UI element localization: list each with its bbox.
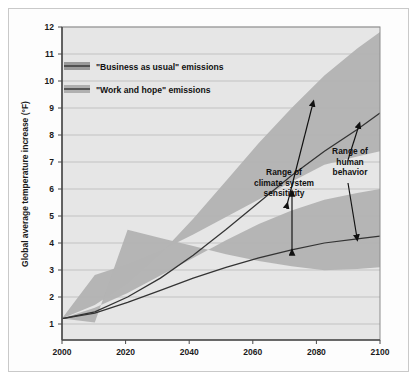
y-axis-title: Global average temperature increase (°F) — [20, 101, 30, 267]
y-tick-label: 11 — [45, 49, 54, 59]
climate-sensitivity-label-line1: Range of — [266, 167, 302, 177]
temperature-projection-chart: 12 11 10 9 8 7 6 5 4 3 2 1 Global averag… — [0, 0, 417, 383]
y-tick-label: 1 — [49, 319, 54, 329]
y-tick-label: 8 — [49, 130, 54, 140]
human-behavior-label-line1: Range of — [332, 146, 368, 156]
human-behavior-label-line2: human — [336, 157, 363, 167]
x-tick-label: 2040 — [180, 347, 199, 357]
x-tick-label: 2020 — [116, 347, 135, 357]
y-axis-tick-labels: 12 11 10 9 8 7 6 5 4 3 2 1 — [45, 22, 55, 329]
x-tick-label: 2060 — [243, 347, 262, 357]
y-tick-label: 7 — [49, 157, 54, 167]
y-tick-label: 6 — [49, 184, 54, 194]
y-tick-label: 10 — [45, 76, 55, 86]
y-tick-label: 9 — [49, 103, 54, 113]
y-tick-label: 3 — [49, 265, 54, 275]
climate-sensitivity-label-line2: climate system — [254, 178, 314, 188]
y-tick-label: 4 — [49, 238, 54, 248]
x-tick-label: 2080 — [307, 347, 326, 357]
climate-sensitivity-label-line3: sensitivity — [264, 188, 305, 198]
legend-item-business-as-usual[interactable]: "Business as usual" emissions — [64, 62, 224, 72]
legend-item-work-and-hope[interactable]: "Work and hope" emissions — [64, 85, 211, 95]
human-behavior-label-line3: behavior — [333, 167, 369, 177]
legend-label-business-as-usual: "Business as usual" emissions — [96, 62, 224, 72]
y-tick-label: 12 — [45, 22, 55, 32]
legend-label-work-and-hope: "Work and hope" emissions — [96, 85, 211, 95]
x-tick-label: 2000 — [53, 347, 72, 357]
y-tick-label: 2 — [49, 292, 54, 302]
figure-container: 12 11 10 9 8 7 6 5 4 3 2 1 Global averag… — [0, 0, 417, 383]
x-axis-tick-labels: 2000 2020 2040 2060 2080 2100 — [53, 347, 390, 357]
x-tick-label: 2100 — [371, 347, 390, 357]
y-tick-label: 5 — [49, 211, 54, 221]
